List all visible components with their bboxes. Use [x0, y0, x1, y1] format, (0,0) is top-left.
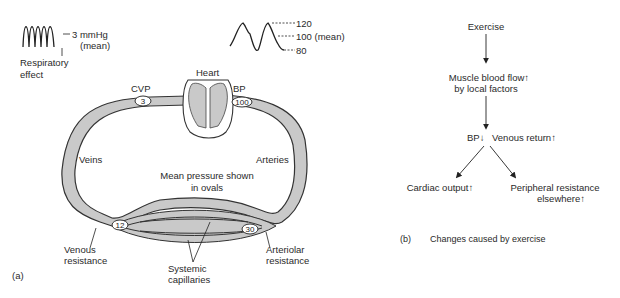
node-exercise: Exercise [468, 21, 504, 32]
respiratory-effect-label-2: effect [20, 69, 43, 80]
venous-trace-value: 3 mmHg [72, 29, 108, 40]
bp-value: 100 [235, 98, 249, 107]
heart-label: Heart [196, 67, 220, 78]
cvp-value: 3 [141, 97, 146, 106]
node-muscle-blood-flow-2: by local factors [454, 83, 518, 94]
arteries-label: Arteries [256, 154, 289, 165]
panel-b-label: (b) [400, 234, 411, 244]
circulation-diagram: 3 mmHg (mean) Respiratory effect 120 100… [0, 0, 620, 298]
note-line-1: Mean pressure shown [160, 170, 253, 181]
diastolic-label: 80 [296, 45, 307, 56]
node-muscle-blood-flow-1: Muscle blood flow↑ [449, 72, 529, 83]
cvp-label: CVP [131, 83, 151, 94]
venous-trace-mean: (mean) [80, 40, 110, 51]
bp-label: BP [233, 83, 246, 94]
arteriolar-resistance-label-2: resistance [266, 255, 309, 266]
venous-pressure-trace [23, 27, 54, 47]
node-bp: BP↓ [467, 132, 484, 143]
panel-a-label: (a) [12, 270, 24, 281]
respiratory-effect-label-1: Respiratory [20, 57, 69, 68]
arterial-pressure-trace [230, 23, 284, 50]
node-peripheral-resistance-1: Peripheral resistance [510, 182, 599, 193]
panel-b-caption: Changes caused by exercise [430, 234, 546, 244]
mean-pressure-label: 100 (mean) [296, 31, 345, 42]
heart [183, 80, 233, 138]
node-venous-return: Venous return↑ [492, 132, 556, 143]
node-peripheral-resistance-2: elsewhere↑ [537, 193, 585, 204]
arteriolar-value: 30 [246, 225, 255, 234]
systolic-label: 120 [296, 18, 312, 29]
capillaries-label-1: Systemic [168, 263, 207, 274]
venous-resistance-label-2: resistance [64, 255, 107, 266]
veins-label: Veins [79, 154, 102, 165]
venous-resistance-label-1: Venous [64, 244, 96, 255]
arteriolar-resistance-label-1: Arteriolar [266, 244, 305, 255]
node-cardiac-output: Cardiac output↑ [407, 182, 474, 193]
venous-value: 12 [116, 221, 125, 230]
note-line-2: in ovals [191, 182, 223, 193]
capillaries-label-2: capillaries [168, 274, 210, 285]
